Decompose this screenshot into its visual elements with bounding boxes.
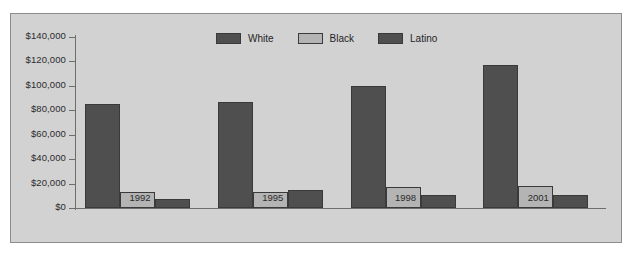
bar-group-bars xyxy=(351,37,461,208)
y-axis-tick-mark xyxy=(69,208,75,209)
x-axis-label-1995: 1995 xyxy=(218,192,328,203)
plot-area xyxy=(75,37,606,208)
y-axis-tick-label: $0 xyxy=(55,201,66,212)
bar-group-2001 xyxy=(483,37,593,208)
bar-group-1992 xyxy=(85,37,195,208)
chart-figure: White Black Latino $140,000$120,000$100,… xyxy=(10,13,622,243)
x-axis-label-1998: 1998 xyxy=(351,192,461,203)
y-axis-tick-label: $80,000 xyxy=(31,103,66,114)
y-axis-tick-label: $60,000 xyxy=(31,128,66,139)
bar-group-bars xyxy=(218,37,328,208)
x-axis-line xyxy=(75,208,606,209)
y-axis-tick-label: $100,000 xyxy=(26,79,66,90)
x-axis-label-2001: 2001 xyxy=(483,192,593,203)
x-axis-label-1992: 1992 xyxy=(85,192,195,203)
bar-group-1995 xyxy=(218,37,328,208)
bar-white-1998 xyxy=(351,86,386,208)
bar-group-bars xyxy=(85,37,195,208)
y-axis-tick-label: $120,000 xyxy=(26,54,66,65)
y-axis-tick-label: $20,000 xyxy=(31,177,66,188)
bar-group-bars xyxy=(483,37,593,208)
y-axis-tick-label: $40,000 xyxy=(31,152,66,163)
bar-white-2001 xyxy=(483,65,518,208)
bar-group-1998 xyxy=(351,37,461,208)
y-axis-tick-label: $140,000 xyxy=(26,30,66,41)
